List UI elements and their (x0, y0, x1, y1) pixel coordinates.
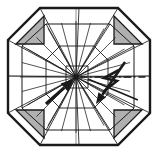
figure-root (0, 0, 159, 154)
hub-center-dot (74, 75, 78, 79)
octagon-canopy-diagram (0, 0, 159, 154)
